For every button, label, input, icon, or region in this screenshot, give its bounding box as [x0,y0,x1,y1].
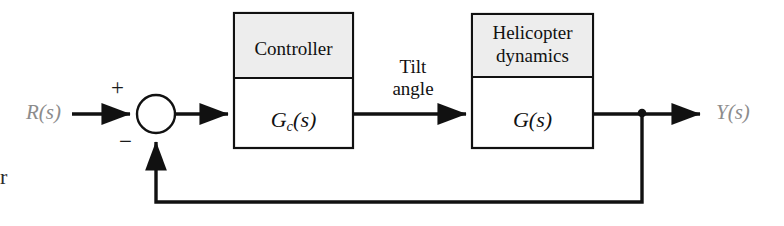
tilt-angle-label-line2: angle [363,78,463,99]
summing-junction-circle [137,95,175,133]
controller-tf-base: G [271,107,287,132]
block-diagram-canvas: R(s) Y(s) + − Controller Gc(s) Helicopte… [0,0,784,226]
controller-header-label: Controller [234,38,353,59]
summing-junction-plus-sign: + [111,75,124,101]
summing-junction-minus-sign: − [119,129,132,155]
output-signal-label: Y(s) [716,101,750,125]
plant-tf-arg: (s) [529,107,552,132]
controller-block-text-group: Controller Gc(s) [234,13,353,148]
plant-block-text-group: Helicopter dynamics G(s) [472,14,593,148]
controller-tf-arg: (s) [293,107,316,132]
diagram-vector-layer [0,0,784,226]
page-edge-artifact: r [0,164,12,190]
plant-tf-base: G [513,107,529,132]
plant-header-label-line1: Helicopter [472,22,593,43]
controller-transfer-function: Gc(s) [234,108,353,134]
plant-transfer-function: G(s) [472,108,593,134]
input-signal-label: R(s) [26,101,61,125]
tilt-angle-label-line1: Tilt [363,56,463,77]
plant-header-label-line2: dynamics [472,45,593,66]
